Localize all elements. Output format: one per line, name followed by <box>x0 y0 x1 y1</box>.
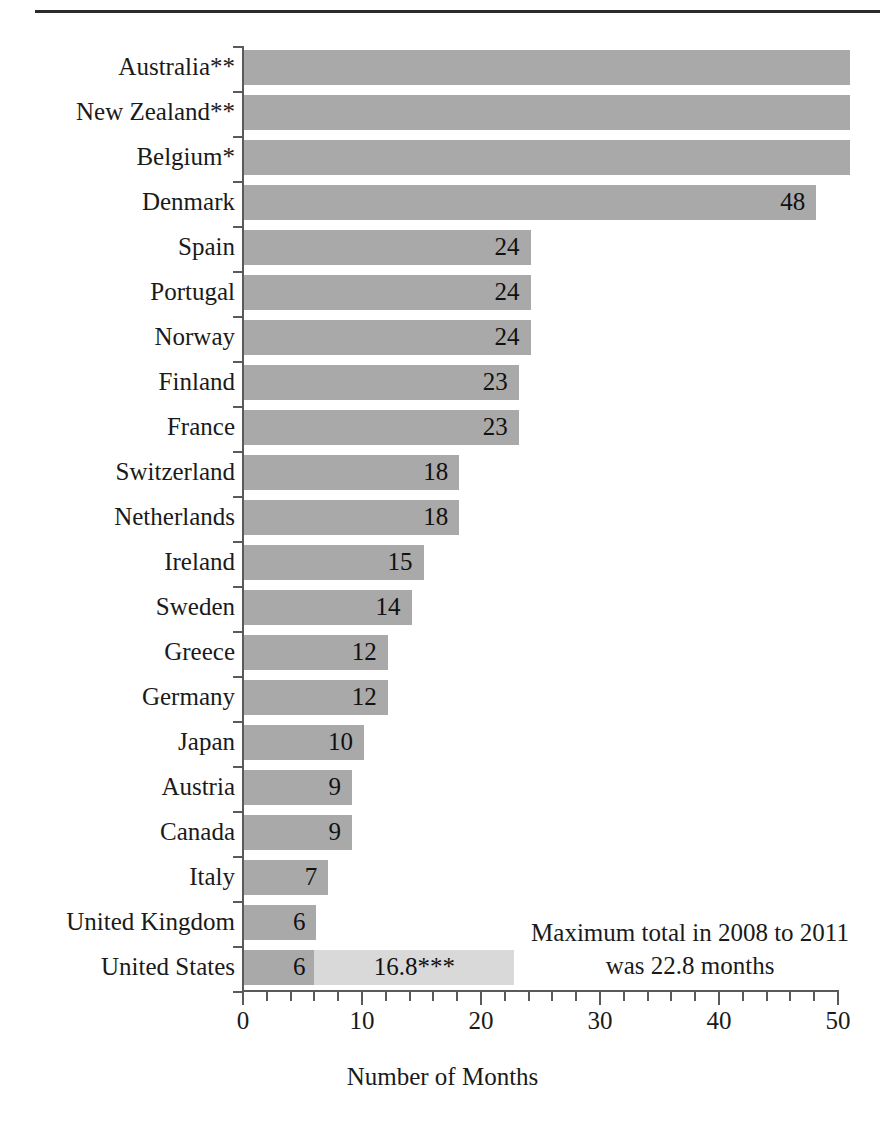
x-axis-minor-tick <box>313 992 315 1001</box>
x-axis-minor-tick <box>551 992 553 1001</box>
x-axis-minor-tick <box>385 992 387 1001</box>
bar-value-label: 14 <box>243 593 401 621</box>
x-axis-minor-tick <box>647 992 649 1001</box>
annotation-line-1: Maximum total in 2008 to 2011 <box>500 916 880 949</box>
category-label: Germany <box>142 683 235 711</box>
category-label: Switzerland <box>116 458 235 486</box>
y-axis-tick <box>233 901 243 903</box>
x-axis-minor-tick <box>813 992 815 1001</box>
category-label: Greece <box>164 638 235 666</box>
category-label: Ireland <box>164 548 235 576</box>
x-axis-title: Number of Months <box>0 1062 885 1092</box>
category-label: Finland <box>159 368 235 396</box>
x-axis-minor-tick <box>337 992 339 1001</box>
x-axis-major-tick <box>361 992 363 1005</box>
x-axis-minor-tick <box>670 992 672 1001</box>
x-axis-minor-tick <box>789 992 791 1001</box>
x-axis-major-tick <box>718 992 720 1005</box>
x-axis-major-tick <box>599 992 601 1005</box>
category-label: Norway <box>154 323 235 351</box>
bar-value-label: 18 <box>243 458 448 486</box>
x-axis-minor-tick <box>432 992 434 1001</box>
plot-area: 01020304050 Australia**New Zealand**Belg… <box>0 0 885 1121</box>
y-axis-tick <box>233 406 243 408</box>
x-axis-tick-label: 30 <box>560 1006 640 1036</box>
bar-value-label: 12 <box>243 638 377 666</box>
y-axis-tick <box>233 586 243 588</box>
category-label: Spain <box>178 233 235 261</box>
bar-value-label: 23 <box>243 368 508 396</box>
x-axis-minor-tick <box>409 992 411 1001</box>
category-label: France <box>167 413 235 441</box>
y-axis-tick <box>233 451 243 453</box>
y-axis-tick <box>233 541 243 543</box>
bar-value-label: 24 <box>243 233 520 261</box>
bar-value-label: 9 <box>243 773 341 801</box>
y-axis-tick <box>233 811 243 813</box>
y-axis-tick <box>233 316 243 318</box>
x-axis-minor-tick <box>623 992 625 1001</box>
x-axis-major-tick <box>837 992 839 1005</box>
category-label: United States <box>101 953 235 981</box>
bar-value-label: 9 <box>243 818 341 846</box>
y-axis-tick <box>233 46 243 48</box>
y-axis-tick <box>233 856 243 858</box>
category-label: Japan <box>178 728 235 756</box>
y-axis-tick <box>233 946 243 948</box>
bar-value-label-extra: 16.8*** <box>314 953 514 981</box>
x-axis-tick-label: 0 <box>203 1006 283 1036</box>
bar-value-label: 23 <box>243 413 508 441</box>
bar-value-label: 7 <box>243 863 317 891</box>
bar-value-label: 6 <box>243 908 305 936</box>
category-label: Canada <box>160 818 235 846</box>
bar <box>244 95 850 130</box>
y-axis-tick <box>233 136 243 138</box>
x-axis-tick-label: 20 <box>441 1006 521 1036</box>
y-axis-tick <box>233 496 243 498</box>
y-axis-tick <box>233 226 243 228</box>
category-label: Portugal <box>150 278 235 306</box>
x-axis-minor-tick <box>266 992 268 1001</box>
x-axis-minor-tick <box>766 992 768 1001</box>
category-label: Australia** <box>118 53 235 81</box>
x-axis-major-tick <box>242 992 244 1005</box>
y-axis-tick <box>233 766 243 768</box>
y-axis-tick <box>233 361 243 363</box>
bar-value-label: 12 <box>243 683 377 711</box>
x-axis-minor-tick <box>575 992 577 1001</box>
x-axis-line <box>242 990 839 992</box>
bar-value-label: 15 <box>243 548 413 576</box>
x-axis-minor-tick <box>694 992 696 1001</box>
category-label: Austria <box>161 773 235 801</box>
chart-figure: 01020304050 Australia**New Zealand**Belg… <box>0 0 885 1121</box>
bar <box>244 140 850 175</box>
category-label: Denmark <box>142 188 235 216</box>
annotation-line-2: was 22.8 months <box>500 949 880 982</box>
category-label: Italy <box>189 863 235 891</box>
bar-value-label: 18 <box>243 503 448 531</box>
category-label: New Zealand** <box>76 98 235 126</box>
y-axis-tick <box>233 676 243 678</box>
max-total-annotation: Maximum total in 2008 to 2011 was 22.8 m… <box>500 916 880 982</box>
x-axis-minor-tick <box>528 992 530 1001</box>
category-label: Belgium* <box>136 143 235 171</box>
bar-value-label: 24 <box>243 323 520 351</box>
x-axis-major-tick <box>480 992 482 1005</box>
y-axis-tick <box>233 271 243 273</box>
x-axis-minor-tick <box>504 992 506 1001</box>
x-axis-tick-label: 50 <box>798 1006 878 1036</box>
x-axis-tick-label: 40 <box>679 1006 759 1036</box>
bar-value-label: 48 <box>243 188 805 216</box>
x-axis-tick-label: 10 <box>322 1006 402 1036</box>
bar-value-label: 10 <box>243 728 353 756</box>
x-axis-minor-tick <box>742 992 744 1001</box>
y-axis-tick <box>233 631 243 633</box>
x-axis-minor-tick <box>456 992 458 1001</box>
bar <box>244 50 850 85</box>
bar-value-label: 6 <box>243 953 305 981</box>
y-axis-tick <box>233 91 243 93</box>
category-label: United Kingdom <box>66 908 235 936</box>
x-axis-minor-tick <box>290 992 292 1001</box>
bar-value-label: 24 <box>243 278 520 306</box>
y-axis-tick <box>233 721 243 723</box>
